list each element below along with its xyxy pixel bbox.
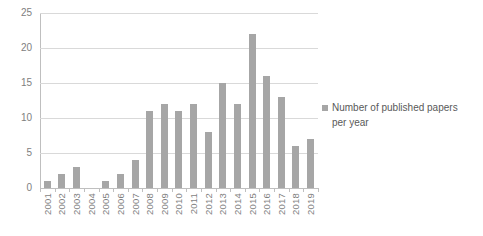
bar-slot: [230, 13, 245, 188]
x-axis-tick-label: 2003: [71, 193, 82, 215]
bar-slot: [289, 13, 304, 188]
bar: [117, 174, 124, 188]
x-axis-tick-label: 2016: [261, 193, 272, 215]
x-label-slot: 2012: [201, 193, 216, 236]
x-label-slot: 2006: [113, 193, 128, 236]
bar: [278, 97, 285, 188]
tick-mark: [55, 188, 56, 192]
bar: [73, 167, 80, 188]
x-label-slot: 2005: [99, 193, 114, 236]
plot-area: [40, 13, 318, 188]
x-label-slot: 2014: [230, 193, 245, 236]
bar: [234, 104, 241, 188]
bar: [249, 34, 256, 188]
x-axis-tick-label: 2004: [86, 193, 97, 215]
x-label-slot: 2015: [245, 193, 260, 236]
bar-slot: [142, 13, 157, 188]
x-axis-tick-label: 2008: [144, 193, 155, 215]
legend-label: Number of published papers per year: [332, 101, 472, 130]
y-axis-tick-label: 5: [0, 148, 32, 158]
x-axis-tick-label: 2015: [247, 193, 258, 215]
bar: [44, 181, 51, 188]
bar: [58, 174, 65, 188]
tick-mark: [69, 188, 70, 192]
bar-series: [40, 13, 318, 188]
x-axis: 2001200220032004200520062007200820092010…: [40, 193, 318, 236]
bar: [219, 83, 226, 188]
y-axis: 2520151050: [0, 0, 32, 236]
x-axis-tick-label: 2012: [203, 193, 214, 215]
x-label-slot: 2008: [142, 193, 157, 236]
bar-slot: [128, 13, 143, 188]
bar-slot: [99, 13, 114, 188]
bar: [307, 139, 314, 188]
tick-mark: [172, 188, 173, 192]
x-label-slot: 2011: [186, 193, 201, 236]
legend-swatch-icon: [322, 105, 328, 111]
y-axis-tick-label: 20: [0, 43, 32, 53]
tick-mark: [99, 188, 100, 192]
x-label-slot: 2010: [172, 193, 187, 236]
bar: [175, 111, 182, 188]
x-label-slot: 2002: [55, 193, 70, 236]
bar: [292, 146, 299, 188]
bar-slot: [259, 13, 274, 188]
bar-slot: [216, 13, 231, 188]
tick-mark: [303, 188, 304, 192]
bar: [161, 104, 168, 188]
y-axis-tick-label: 25: [0, 8, 32, 18]
tick-mark: [245, 188, 246, 192]
bar-slot: [274, 13, 289, 188]
x-axis-tick-label: 2002: [56, 193, 67, 215]
tick-mark: [318, 188, 319, 192]
x-axis-tick-label: 2010: [173, 193, 184, 215]
x-label-slot: 2016: [259, 193, 274, 236]
x-label-slot: 2001: [40, 193, 55, 236]
bar-chart: 2520151050 20012002200320042005200620072…: [0, 0, 483, 236]
bar-slot: [245, 13, 260, 188]
tick-mark: [230, 188, 231, 192]
tick-mark: [142, 188, 143, 192]
x-label-slot: 2009: [157, 193, 172, 236]
x-axis-tick-label: 2001: [42, 193, 53, 215]
x-axis-tick-label: 2007: [130, 193, 141, 215]
bar-slot: [303, 13, 318, 188]
tick-mark: [113, 188, 114, 192]
bar-slot: [157, 13, 172, 188]
tick-mark: [84, 188, 85, 192]
tick-mark: [186, 188, 187, 192]
bar: [205, 132, 212, 188]
bar-slot: [186, 13, 201, 188]
x-axis-tick-label: 2013: [217, 193, 228, 215]
x-label-slot: 2018: [289, 193, 304, 236]
tick-mark: [216, 188, 217, 192]
x-axis-tick-label: 2014: [232, 193, 243, 215]
x-axis-tick-label: 2009: [159, 193, 170, 215]
bar-slot: [84, 13, 99, 188]
tick-mark: [259, 188, 260, 192]
y-axis-tick-label: 10: [0, 113, 32, 123]
x-axis-tick-label: 2006: [115, 193, 126, 215]
x-label-slot: 2017: [274, 193, 289, 236]
x-label-slot: 2013: [216, 193, 231, 236]
bar-slot: [69, 13, 84, 188]
x-axis-tick-label: 2017: [276, 193, 287, 215]
x-label-slot: 2007: [128, 193, 143, 236]
tick-mark: [128, 188, 129, 192]
bar: [102, 181, 109, 188]
bar-slot: [172, 13, 187, 188]
tick-mark: [289, 188, 290, 192]
bar-slot: [113, 13, 128, 188]
tick-mark: [157, 188, 158, 192]
tick-mark: [274, 188, 275, 192]
x-axis-tick-label: 2018: [290, 193, 301, 215]
x-label-slot: 2019: [303, 193, 318, 236]
x-axis-tick-label: 2019: [305, 193, 316, 215]
x-axis-tick-label: 2011: [188, 193, 199, 214]
x-axis-tick-label: 2005: [100, 193, 111, 215]
bar-slot: [201, 13, 216, 188]
y-axis-tick-label: 0: [0, 183, 32, 193]
x-label-slot: 2003: [69, 193, 84, 236]
y-axis-tick-label: 15: [0, 78, 32, 88]
bar: [132, 160, 139, 188]
